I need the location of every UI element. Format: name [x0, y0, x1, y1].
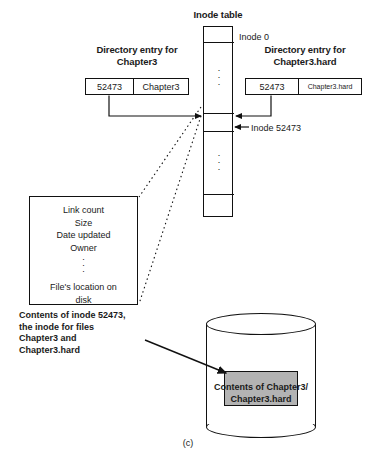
inode-contents-caption-line3: Chapter3 and: [19, 333, 159, 345]
left-directory-entry-inode-number: 52473: [86, 79, 133, 94]
left-directory-entry-name: Chapter3: [133, 79, 188, 94]
inode-field-date-updated: Date updated: [30, 229, 137, 242]
inode-contents-caption-line1: Contents of inode 52473,: [19, 310, 159, 322]
inode-table-divider-top: [204, 42, 234, 43]
cylinder-top-ellipse: [206, 313, 316, 335]
right-directory-entry-name: Chapter3.hard: [298, 79, 361, 94]
inode-table-divider-lower: [204, 131, 234, 132]
right-directory-entry-box: 52473 Chapter3.hard: [245, 78, 362, 95]
inode-table-divider-bottom: [204, 194, 234, 195]
right-directory-entry-title-line2: Chapter3.hard: [238, 56, 372, 68]
left-entry-connector: [109, 96, 201, 117]
disk-caption-line2: Chapter3.hard: [206, 394, 316, 406]
inode-table-title: Inode table: [163, 9, 273, 21]
disk-cylinder: Contents of Chapter3/ Chapter3.hard: [206, 313, 316, 438]
inode-field-link-count: Link count: [30, 204, 137, 217]
inode-field-owner: Owner: [30, 242, 137, 255]
inode-table-dots-upper: · · ·: [204, 67, 234, 88]
left-directory-entry-title: Directory entry for Chapter3: [72, 44, 202, 68]
inode-field-file-location: File's location on: [30, 281, 137, 294]
inode-table-divider-upper: [204, 113, 234, 114]
disk-caption-line1: Contents of Chapter3/: [206, 382, 316, 394]
figure-canvas: Inode table · · · · · · Inode 0 Inode 52…: [0, 0, 376, 459]
dot: ·: [204, 166, 234, 173]
inode-field-size: Size: [30, 217, 137, 230]
inode-table-dots-lower: · · ·: [204, 152, 234, 173]
left-directory-entry-box: 52473 Chapter3: [85, 78, 189, 95]
inode-fields-dots: · · ·: [30, 254, 137, 274]
inode-52473-label: Inode 52473: [251, 122, 331, 134]
left-directory-entry-title-line1: Directory entry for: [72, 44, 202, 56]
inode-table: · · · · · ·: [203, 26, 233, 217]
right-directory-entry-title-line1: Directory entry for: [238, 44, 372, 56]
inode-contents-caption-line2: the inode for files: [19, 322, 159, 334]
left-directory-entry-title-line2: Chapter3: [72, 56, 202, 68]
inode-contents-box: Link count Size Date updated Owner · · ·…: [29, 196, 138, 305]
right-directory-entry-inode-number: 52473: [246, 79, 298, 94]
inode-expansion-lines: [139, 107, 201, 304]
inode-contents-caption-line4: Chapter3.hard: [19, 345, 159, 357]
inode-field-file-location-2: disk: [30, 294, 137, 307]
right-directory-entry-title: Directory entry for Chapter3.hard: [238, 44, 372, 68]
dot: ·: [30, 268, 137, 274]
right-entry-connector: [236, 96, 271, 117]
figure-caption: (c): [158, 437, 218, 449]
dot: ·: [204, 81, 234, 88]
disk-caption: Contents of Chapter3/ Chapter3.hard: [206, 382, 316, 405]
inode-zero-label: Inode 0: [239, 31, 299, 43]
inode-contents-caption: Contents of inode 52473, the inode for f…: [19, 310, 159, 356]
